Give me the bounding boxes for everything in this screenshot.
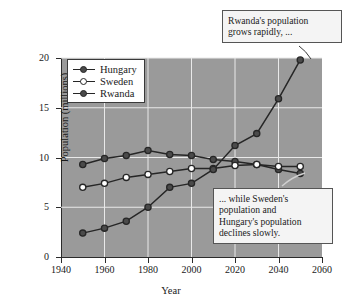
x-tick (322, 258, 323, 263)
y-tick-label: 5 (23, 202, 49, 212)
y-tick-label: 10 (23, 153, 49, 163)
marker-sweden (275, 163, 281, 169)
population-line-chart: 05101520 1940196019802000202020402060 Po… (0, 0, 343, 306)
marker-rwanda (188, 180, 194, 186)
marker-hungary (145, 147, 151, 153)
marker-rwanda (101, 225, 107, 231)
marker-sweden (80, 184, 86, 190)
callout-line: Hungary's population (219, 216, 327, 227)
legend-marker-sweden (73, 76, 95, 87)
decline-callout: ... while Sweden'spopulation andHungary'… (213, 188, 333, 244)
y-tick (56, 207, 61, 208)
marker-sweden (297, 163, 303, 169)
x-tick (279, 258, 280, 263)
x-tick-label: 2060 (302, 265, 342, 275)
series-layer (0, 0, 343, 306)
x-tick (235, 258, 236, 263)
callout-line: Rwanda's population (228, 15, 336, 26)
x-tick-label: 1940 (41, 265, 81, 275)
marker-rwanda (167, 184, 173, 190)
legend-item-rwanda: Rwanda (73, 87, 137, 99)
legend-label-rwanda: Rwanda (100, 88, 134, 99)
callout-line: population and (219, 204, 327, 215)
chart-legend: Hungary Sweden Rwanda (67, 59, 145, 103)
marker-sweden (101, 180, 107, 186)
y-tick-label: 20 (23, 53, 49, 63)
legend-label-hungary: Hungary (100, 64, 137, 75)
callout-line: declines slowly. (219, 227, 327, 238)
marker-rwanda (297, 57, 303, 63)
marker-rwanda (123, 218, 129, 224)
marker-rwanda (210, 166, 216, 172)
marker-rwanda (145, 204, 151, 210)
marker-sweden (167, 168, 173, 174)
marker-hungary (101, 155, 107, 161)
marker-hungary (188, 152, 194, 158)
x-tick (148, 258, 149, 263)
x-tick-label: 2000 (172, 265, 212, 275)
rwanda-growth-callout: Rwanda's populationgrows rapidly, ... (222, 10, 342, 43)
marker-hungary (123, 152, 129, 158)
marker-hungary (210, 156, 216, 162)
marker-hungary (80, 161, 86, 167)
marker-rwanda (80, 230, 86, 236)
marker-hungary (167, 151, 173, 157)
marker-rwanda (232, 142, 238, 148)
marker-sweden (123, 174, 129, 180)
legend-marker-rwanda (73, 88, 95, 99)
legend-item-hungary: Hungary (73, 63, 137, 75)
x-tick-label: 2020 (215, 265, 255, 275)
legend-item-sweden: Sweden (73, 75, 137, 87)
x-tick-label: 1960 (85, 265, 125, 275)
marker-sweden (145, 171, 151, 177)
x-tick (192, 258, 193, 263)
x-tick (61, 258, 62, 263)
x-tick (105, 258, 106, 263)
y-tick-label: 15 (23, 103, 49, 113)
marker-rwanda (275, 96, 281, 102)
marker-sweden (232, 162, 238, 168)
callout-line: ... while Sweden's (219, 193, 327, 204)
marker-sweden (254, 161, 260, 167)
legend-marker-hungary (73, 64, 95, 75)
x-tick-label: 2040 (259, 265, 299, 275)
marker-sweden (188, 165, 194, 171)
x-axis-title: Year (131, 285, 211, 296)
y-tick-label: 0 (23, 252, 49, 262)
x-tick-label: 1980 (128, 265, 168, 275)
callout-line: grows rapidly, ... (228, 26, 336, 37)
marker-rwanda (254, 131, 260, 137)
legend-label-sweden: Sweden (100, 76, 133, 87)
